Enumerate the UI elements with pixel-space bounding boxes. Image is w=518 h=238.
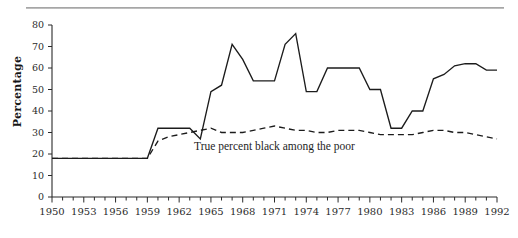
x-tick-label: 1950 (39, 206, 64, 217)
series-annotations: True percent black among the poor (194, 140, 355, 153)
y-tick-label: 60 (32, 62, 44, 73)
y-tick-label: 0 (38, 191, 44, 202)
x-tick-label: 1971 (262, 206, 287, 217)
y-tick-label: 30 (32, 127, 44, 138)
top-divider-rule (26, 7, 504, 9)
x-tick-label: 1974 (294, 206, 319, 217)
axis-spines (52, 25, 497, 197)
series-annotation-label: True percent black among the poor (194, 140, 355, 153)
line-chart-canvas: 01020304050607080 1950195319561959196219… (0, 0, 518, 238)
x-axis-ticks: 1950195319561959196219651968197119741977… (39, 197, 509, 217)
y-tick-label: 10 (32, 170, 44, 181)
y-tick-label: 40 (32, 105, 44, 116)
y-tick-label: 70 (32, 41, 44, 52)
x-tick-label: 1956 (103, 206, 128, 217)
x-tick-label: 1968 (230, 206, 255, 217)
x-tick-label: 1965 (198, 206, 223, 217)
y-axis-ticks: 01020304050607080 (32, 19, 52, 202)
x-tick-label: 1989 (452, 206, 477, 217)
x-tick-label: 1962 (166, 206, 191, 217)
x-tick-label: 1983 (389, 206, 414, 217)
y-axis-title: Percentage (11, 37, 24, 147)
x-tick-label: 1986 (421, 206, 446, 217)
chart-figure: Percentage 01020304050607080 19501953195… (0, 0, 518, 238)
x-tick-label: 1980 (357, 206, 382, 217)
y-tick-label: 20 (32, 148, 44, 159)
x-tick-label: 1977 (325, 206, 350, 217)
x-tick-label: 1992 (484, 206, 509, 217)
x-tick-label: 1959 (135, 206, 160, 217)
x-tick-label: 1953 (71, 206, 96, 217)
y-tick-label: 50 (32, 84, 44, 95)
y-tick-label: 80 (32, 19, 44, 30)
